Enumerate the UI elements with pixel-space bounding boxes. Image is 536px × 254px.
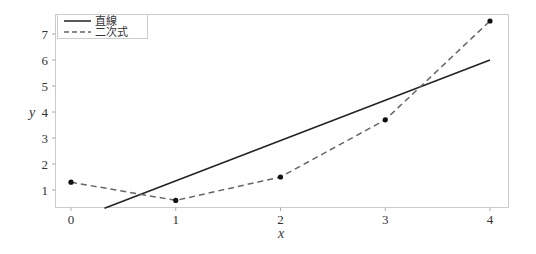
x-axis: 01234 [68, 208, 494, 228]
x-tick-label: 4 [487, 212, 494, 227]
y-tick-label: 5 [42, 79, 49, 94]
data-point [383, 117, 388, 122]
quadratic-fit-line [71, 21, 490, 200]
linear-fit-line [105, 60, 491, 208]
x-axis-label: x [277, 226, 285, 241]
x-tick-label: 0 [68, 212, 75, 227]
legend-item-quadratic: 二次式 [95, 25, 128, 39]
x-tick-label: 2 [277, 212, 284, 227]
plot-series [68, 18, 492, 208]
data-point [173, 198, 178, 203]
x-tick-label: 1 [173, 212, 180, 227]
data-point [487, 18, 492, 23]
y-axis: 1234567 [42, 27, 56, 198]
y-tick-label: 7 [42, 27, 49, 42]
y-tick-label: 1 [42, 183, 49, 198]
data-point [68, 180, 73, 185]
y-tick-label: 4 [42, 105, 49, 120]
legend: 直線 二次式 [58, 14, 148, 39]
x-tick-label: 3 [382, 212, 389, 227]
y-tick-label: 3 [42, 131, 49, 146]
y-tick-label: 2 [42, 157, 49, 172]
y-axis-label: y [27, 105, 36, 120]
data-point [278, 174, 283, 179]
chart: 1234567 01234 x y 直線 二次式 [0, 0, 536, 254]
y-tick-label: 6 [42, 53, 49, 68]
